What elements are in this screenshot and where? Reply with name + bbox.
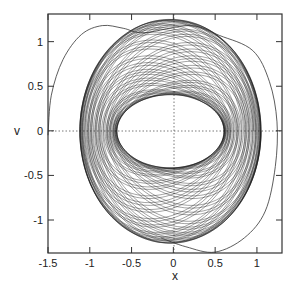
- x-tick-label: -0.5: [122, 257, 141, 269]
- phase-portrait-chart: -1.5-1-0.500.51 -1-0.500.51 x v: [0, 0, 296, 297]
- x-tick-label: -1.5: [39, 257, 58, 269]
- y-tick-label: 0.5: [28, 80, 43, 92]
- torus-trajectory: [80, 19, 261, 243]
- plot-area: [48, 14, 282, 253]
- torus-curve: [80, 19, 261, 243]
- y-axis-label: v: [14, 124, 20, 138]
- x-tick-label: 0.5: [207, 257, 222, 269]
- y-tick-label: -0.5: [24, 169, 43, 181]
- y-tick-label: 1: [37, 36, 43, 48]
- y-tick-label: -1: [33, 214, 43, 226]
- x-tick-label: -1: [85, 257, 95, 269]
- x-axis-label: x: [172, 269, 178, 283]
- x-tick-label: 1: [254, 257, 260, 269]
- x-tick-label: 0: [170, 257, 176, 269]
- y-tick-label: 0: [37, 125, 43, 137]
